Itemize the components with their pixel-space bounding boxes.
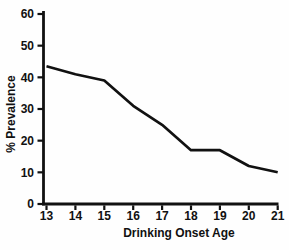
y-tick-label: 0 bbox=[27, 197, 34, 211]
prevalence-data-line bbox=[47, 66, 278, 172]
x-tick-label: 21 bbox=[271, 209, 285, 223]
x-tick-label: 18 bbox=[184, 209, 198, 223]
x-tick-label: 19 bbox=[213, 209, 227, 223]
y-tick-label: 10 bbox=[21, 166, 35, 180]
y-tick-label: 20 bbox=[21, 134, 35, 148]
x-axis-title: Drinking Onset Age bbox=[123, 226, 235, 240]
y-axis-title: % Prevalence bbox=[4, 75, 18, 153]
prevalence-by-onset-age-figure: 0102030405060131415161718192021 % Preval… bbox=[0, 0, 289, 250]
y-tick-label: 50 bbox=[21, 39, 35, 53]
y-tick-label: 30 bbox=[21, 102, 35, 116]
y-tick-label: 40 bbox=[21, 71, 35, 85]
x-tick-label: 20 bbox=[242, 209, 256, 223]
line-chart: 0102030405060131415161718192021 % Preval… bbox=[0, 0, 289, 250]
x-tick-label: 17 bbox=[155, 209, 169, 223]
x-tick-label: 13 bbox=[40, 209, 54, 223]
y-tick-label: 60 bbox=[21, 7, 35, 21]
x-tick-label: 14 bbox=[69, 209, 83, 223]
x-tick-label: 16 bbox=[127, 209, 141, 223]
x-tick-label: 15 bbox=[98, 209, 112, 223]
plot-area: 0102030405060131415161718192021 bbox=[21, 7, 285, 223]
